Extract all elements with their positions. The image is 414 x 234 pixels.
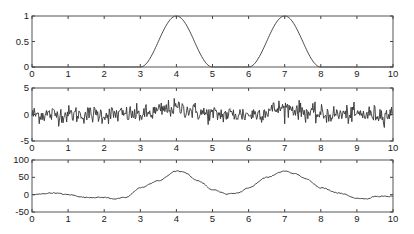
x-tick-label: 6 <box>246 213 251 224</box>
x-tick-label: 2 <box>102 213 107 224</box>
x-tick-label: 0 <box>29 213 34 224</box>
x-tick-label: 0 <box>29 142 34 153</box>
x-tick-label: 7 <box>282 142 287 153</box>
x-tick-label: 6 <box>246 142 251 153</box>
pulse-plot: 01234567891000.51 <box>16 10 399 79</box>
y-tick-label: -5 <box>21 135 29 146</box>
y-tick-label: 0 <box>24 109 29 120</box>
x-tick-label: 10 <box>388 68 399 79</box>
x-tick-label: 4 <box>174 68 179 79</box>
x-tick-label: 3 <box>138 142 143 153</box>
x-tick-label: 5 <box>210 142 215 153</box>
x-tick-label: 1 <box>65 68 70 79</box>
y-tick-label: 1 <box>24 10 29 21</box>
figure: 01234567891000.51 012345678910-505 01234… <box>0 0 414 234</box>
x-tick-label: 8 <box>318 68 323 79</box>
x-tick-label: 2 <box>102 68 107 79</box>
x-tick-label: 8 <box>318 142 323 153</box>
y-tick-label: 0 <box>24 61 29 72</box>
x-tick-label: 5 <box>210 213 215 224</box>
y-tick-label: 5 <box>24 82 29 93</box>
y-tick-label: 50 <box>18 171 29 182</box>
x-tick-label: 4 <box>174 142 179 153</box>
noisy-signal-plot: 012345678910-505 <box>21 82 399 153</box>
y-tick-label: 100 <box>13 154 29 165</box>
x-tick-label: 1 <box>65 213 70 224</box>
axes-frame <box>32 16 393 67</box>
x-tick-label: 6 <box>246 68 251 79</box>
data-line <box>32 98 393 127</box>
x-tick-label: 9 <box>354 142 359 153</box>
x-tick-label: 9 <box>354 213 359 224</box>
x-tick-label: 2 <box>102 142 107 153</box>
x-tick-label: 4 <box>174 213 179 224</box>
filtered-signal-plot: 012345678910-50050100 <box>13 154 398 224</box>
x-tick-label: 0 <box>29 68 34 79</box>
data-line <box>32 171 393 199</box>
data-line <box>32 16 393 67</box>
x-tick-label: 7 <box>282 68 287 79</box>
x-tick-label: 8 <box>318 213 323 224</box>
x-tick-label: 5 <box>210 68 215 79</box>
x-tick-label: 10 <box>388 142 399 153</box>
axes-frame <box>32 160 393 212</box>
x-tick-label: 9 <box>354 68 359 79</box>
x-tick-label: 3 <box>138 68 143 79</box>
x-tick-label: 3 <box>138 213 143 224</box>
x-tick-label: 10 <box>388 213 399 224</box>
y-tick-label: 0 <box>24 189 29 200</box>
x-tick-label: 1 <box>65 142 70 153</box>
y-tick-label: 0.5 <box>16 36 29 47</box>
x-tick-label: 7 <box>282 213 287 224</box>
y-tick-label: -50 <box>15 206 29 217</box>
